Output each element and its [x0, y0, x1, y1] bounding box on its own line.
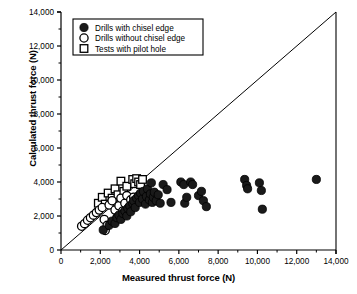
data-points-layer	[78, 175, 321, 235]
x-tick-label: 6,000	[169, 257, 190, 266]
data-point	[257, 186, 265, 194]
legend-box: Drills with chisel edgeDrills without ch…	[73, 19, 203, 55]
data-point	[197, 187, 205, 195]
thrust-force-scatter-chart: 02,0004,0006,0008,00010,00012,00014,0000…	[0, 0, 357, 294]
x-tick-label: 10,000	[245, 257, 270, 266]
x-tick-label: 14,000	[323, 257, 348, 266]
data-point	[312, 175, 320, 183]
x-tick-label: 12,000	[284, 257, 309, 266]
legend-item-label: Drills without chisel edge	[95, 34, 186, 43]
y-axis-title: Calculated thrust force (N)	[27, 19, 38, 199]
data-point	[202, 203, 210, 211]
y-tick-label: 14,000	[29, 8, 54, 17]
x-axis-title: Measured thrust force (N)	[0, 272, 357, 283]
y-tick-label: 0	[49, 246, 54, 255]
data-point	[255, 179, 263, 187]
data-point	[244, 185, 252, 193]
plot-canvas: 02,0004,0006,0008,00010,00012,00014,0000…	[0, 0, 357, 294]
legend-marker-open-circle	[80, 34, 88, 42]
x-tick-label: 4,000	[129, 257, 150, 266]
data-point	[156, 199, 164, 207]
x-tick-label: 8,000	[208, 257, 229, 266]
legend-item-label: Tests with pilot hole	[95, 45, 166, 54]
y-tick-label: 2,000	[34, 212, 55, 221]
data-point	[258, 205, 266, 213]
data-point	[189, 180, 197, 188]
x-tick-label: 2,000	[90, 257, 111, 266]
x-tick-label: 0	[59, 257, 64, 266]
data-point	[154, 191, 162, 199]
data-point	[183, 193, 191, 201]
data-point	[167, 198, 175, 206]
legend-marker-filled-circle	[80, 23, 88, 31]
data-point	[163, 186, 171, 194]
data-point	[139, 176, 147, 184]
data-point	[147, 179, 155, 187]
legend-item-label: Drills with chisel edge	[95, 24, 174, 33]
legend-marker-open-square	[80, 45, 88, 53]
